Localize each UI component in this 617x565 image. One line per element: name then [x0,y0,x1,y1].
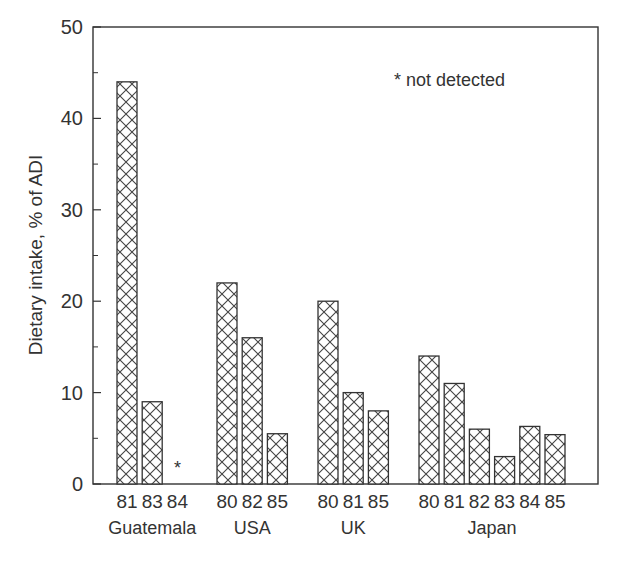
bar-japan-81 [444,383,464,484]
y-axis: 01020304050 [61,16,101,495]
y-tick-label: 50 [61,16,83,38]
x-tick-label: 82 [469,491,490,512]
x-tick-label: 83 [494,491,515,512]
bar-usa-80 [217,283,237,484]
bar-japan-85 [545,435,565,484]
bar-chart: 01020304050 * 818384Guatemala808285USA80… [0,0,617,565]
y-tick-label: 20 [61,290,83,312]
x-tick-label: 80 [418,491,439,512]
y-tick-label: 0 [72,473,83,495]
group-label-uk: UK [341,518,366,538]
x-tick-label: 82 [242,491,263,512]
x-tick-label: 84 [167,491,189,512]
y-tick-label: 40 [61,107,83,129]
bar-guatemala-83 [142,402,162,484]
group-label-guatemala: Guatemala [108,518,197,538]
y-tick-label: 30 [61,199,83,221]
x-tick-label: 85 [368,491,389,512]
x-tick-label: 84 [519,491,541,512]
bar-uk-81 [343,393,363,484]
bar-japan-80 [419,356,439,484]
y-tick-label: 10 [61,382,83,404]
y-axis-title: Dietary intake, % of ADI [25,155,47,356]
x-tick-label: 81 [343,491,364,512]
bar-uk-85 [368,411,388,484]
not-detected-marker: * [174,458,181,478]
x-tick-label: 80 [216,491,237,512]
x-tick-label: 81 [116,491,137,512]
bar-japan-83 [495,457,515,484]
x-tick-label: 80 [317,491,338,512]
x-tick-label: 85 [267,491,288,512]
bar-guatemala-81 [117,82,137,484]
bar-japan-84 [520,426,540,484]
group-label-usa: USA [234,518,271,538]
x-tick-label: 85 [544,491,565,512]
bar-uk-80 [318,301,338,484]
bar-japan-82 [469,429,489,484]
x-tick-label: 81 [444,491,465,512]
bar-usa-85 [267,434,287,484]
x-tick-label: 83 [142,491,163,512]
bar-usa-82 [242,338,262,484]
bars: * [117,82,565,484]
group-label-japan: Japan [467,518,516,538]
x-axis-labels: 818384Guatemala808285USA808185UK80818283… [108,491,565,538]
legend-note: * not detected [394,70,505,91]
